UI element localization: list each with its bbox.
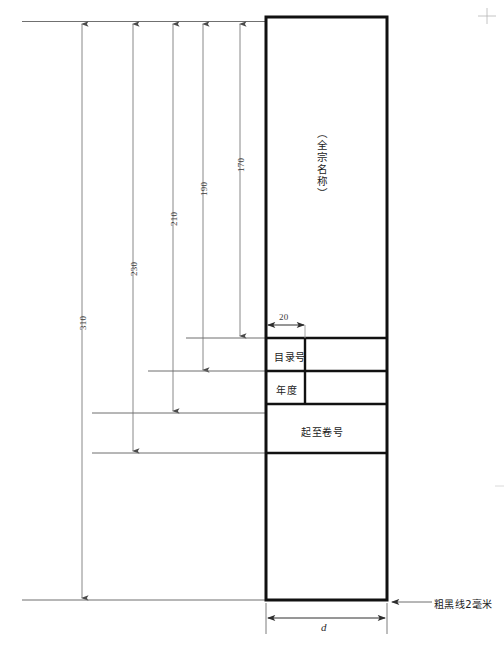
scan-corner-marks xyxy=(478,8,504,486)
dimension-label-d: d xyxy=(321,621,327,633)
witness-lines xyxy=(22,338,266,600)
form-title-fonds-name: （全宗名称） xyxy=(306,128,328,200)
cell-label-catalog-number: 目录号 xyxy=(274,349,306,364)
dimension-label-210: 210 xyxy=(169,212,179,226)
dimension-label-230: 230 xyxy=(129,262,139,276)
drawing-vector-layer xyxy=(0,0,504,648)
dimension-label-310: 310 xyxy=(78,316,88,330)
dimension-label-170: 170 xyxy=(236,158,246,172)
note-thick-black-line: 粗黑线2毫米 xyxy=(434,596,493,611)
dimension-label-190: 190 xyxy=(199,182,209,196)
technical-drawing-canvas: （全宗名称） 目录号 年度 起至卷号 310 230 210 190 170 2… xyxy=(0,0,504,648)
form-outer-border xyxy=(266,17,387,600)
cell-label-year: 年度 xyxy=(276,382,297,397)
vertical-dimension-lines xyxy=(82,24,240,598)
dimension-label-20: 20 xyxy=(279,312,289,322)
cell-label-volume-range: 起至卷号 xyxy=(301,424,343,439)
